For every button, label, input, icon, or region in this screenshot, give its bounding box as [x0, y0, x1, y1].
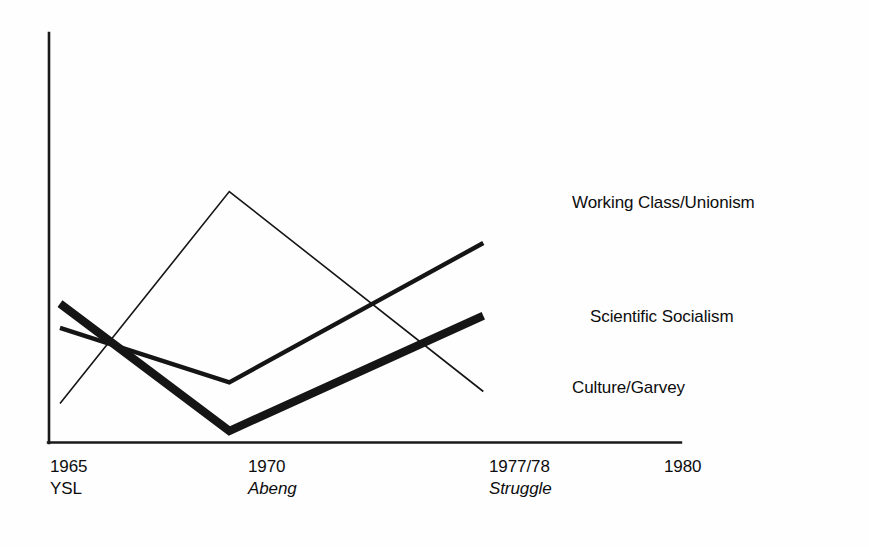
x-tick-1977-78: 1977/78 Struggle — [489, 456, 552, 500]
series-line-scientific-socialism — [60, 304, 483, 431]
x-tick-event-abeng: Abeng — [248, 478, 297, 500]
x-tick-year-1965: 1965 — [50, 456, 87, 478]
series-line-culture-garvey — [60, 192, 483, 404]
x-tick-year-1980: 1980 — [664, 456, 701, 478]
line-chart-canvas — [0, 0, 869, 547]
x-tick-event-struggle: Struggle — [489, 478, 552, 500]
x-tick-1965: 1965 YSL — [50, 456, 87, 500]
x-tick-event-ysl: YSL — [50, 478, 87, 500]
x-tick-year-1970: 1970 — [248, 456, 297, 478]
series-label-scientific-socialism: Scientific Socialism — [590, 308, 734, 325]
series-label-culture-garvey: Culture/Garvey — [572, 379, 685, 396]
chart-page: Working Class/Unionism Scientific Social… — [0, 0, 869, 547]
series-label-working-class: Working Class/Unionism — [572, 194, 755, 211]
series-line-working-class — [60, 243, 483, 382]
x-tick-1980: 1980 — [664, 456, 701, 478]
x-tick-1970: 1970 Abeng — [248, 456, 297, 500]
x-tick-year-1977-78: 1977/78 — [489, 456, 552, 478]
